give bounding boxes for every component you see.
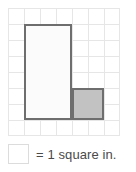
area-model-grid <box>8 8 120 136</box>
worksheet-figure-panel: = 1 square in. <box>0 0 136 172</box>
grid-line-horizontal <box>8 120 120 121</box>
grid-line-horizontal <box>8 135 120 136</box>
legend-swatch-icon <box>8 144 29 164</box>
grid-line-horizontal <box>8 8 120 9</box>
legend-label: = 1 square in. <box>36 148 117 161</box>
shape-shaded-unit-square <box>72 88 104 120</box>
legend: = 1 square in. <box>8 141 128 167</box>
shape-tall-rectangle <box>24 24 72 120</box>
